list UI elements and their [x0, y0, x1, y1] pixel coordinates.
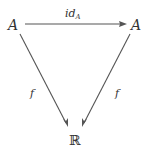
edge-top-arrow: [25, 21, 127, 27]
edge-top-label-main: id: [65, 7, 76, 20]
edge-top-label: idA: [65, 7, 81, 21]
edge-right-label: f: [114, 87, 121, 100]
edge-right-arrow: [82, 34, 130, 127]
arrowhead-icon: [119, 21, 127, 27]
node-top-right: A: [129, 17, 141, 33]
commutative-diagram: A A ℝ idA f f: [0, 0, 147, 150]
edge-top-label-sub: A: [75, 13, 81, 21]
node-bottom: ℝ: [69, 132, 81, 148]
edge-left-arrow: [20, 34, 68, 127]
node-top-left: A: [6, 17, 18, 33]
edge-left-label: f: [29, 87, 36, 100]
